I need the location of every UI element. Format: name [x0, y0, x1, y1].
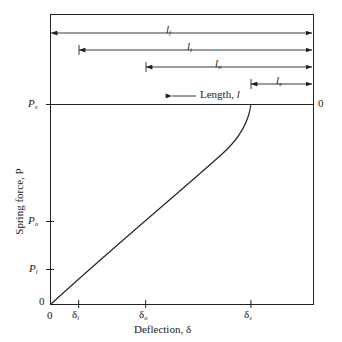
dimension-label-lf: lf [166, 24, 171, 37]
length-note: Length, l [200, 89, 240, 100]
x-tick-label-delta-i: δi [72, 309, 79, 322]
x-tick-label-delta-s: δs [244, 309, 252, 322]
y-axis-title: Spring force, P [14, 142, 25, 262]
y-tick-label-Pi: Pi [29, 263, 38, 276]
x-axis-title: Deflection, δ [134, 324, 191, 335]
dimension-label-li: li [187, 41, 192, 54]
y-origin-label: 0 [39, 296, 45, 307]
force-deflection-curve [51, 105, 251, 305]
x-tick-label-delta-o: δo [139, 309, 148, 322]
x-origin-label: 0 [47, 310, 53, 321]
dimension-bars [51, 33, 312, 89]
right-end-zero-label: 0 [318, 98, 324, 109]
plot-frame [51, 15, 314, 305]
spring-force-deflection-figure: lf li lo ls Length, l 0 Ps Po Pi 0 0 δi … [0, 0, 342, 342]
y-tick-label-Ps: Ps [28, 98, 37, 111]
diagram-canvas [0, 0, 342, 342]
dimension-label-ls: ls [276, 75, 282, 88]
y-tick-label-Po: Po [28, 215, 38, 228]
dimension-label-lo: lo [215, 58, 221, 71]
